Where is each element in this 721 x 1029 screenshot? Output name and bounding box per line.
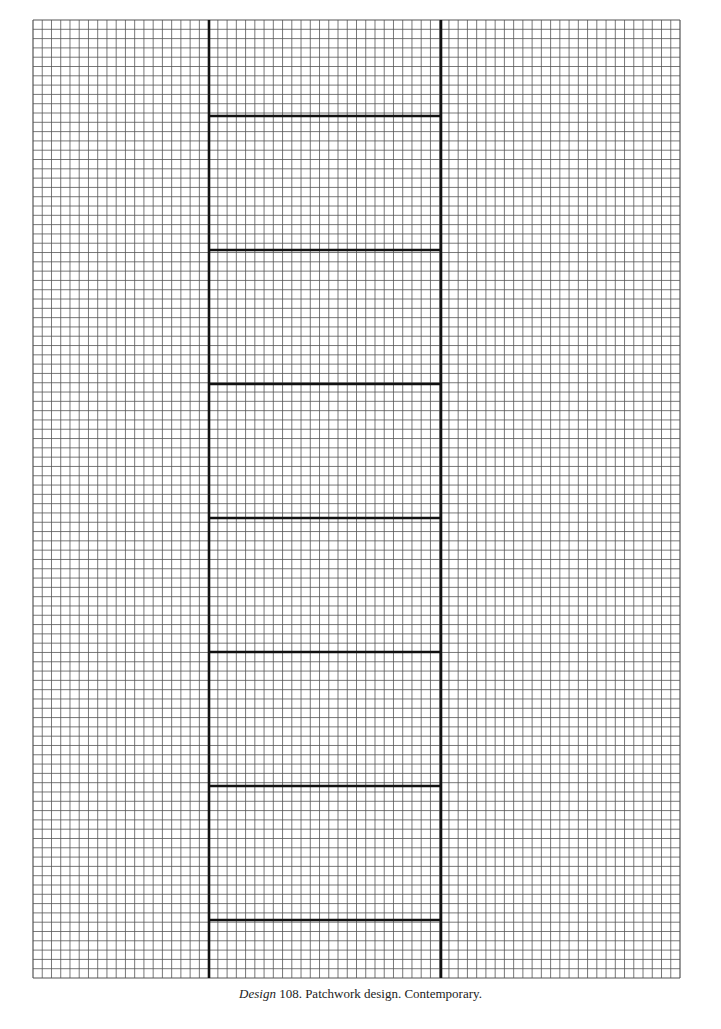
figure-caption: Design 108. Patchwork design. Contempora… xyxy=(0,986,721,1002)
caption-text: 108. Patchwork design. Contemporary. xyxy=(276,986,482,1001)
caption-label: Design xyxy=(239,986,276,1001)
graph-paper-grid xyxy=(33,20,680,978)
patchwork-grid-figure xyxy=(0,0,721,1029)
ladder-strip-design xyxy=(209,20,441,978)
